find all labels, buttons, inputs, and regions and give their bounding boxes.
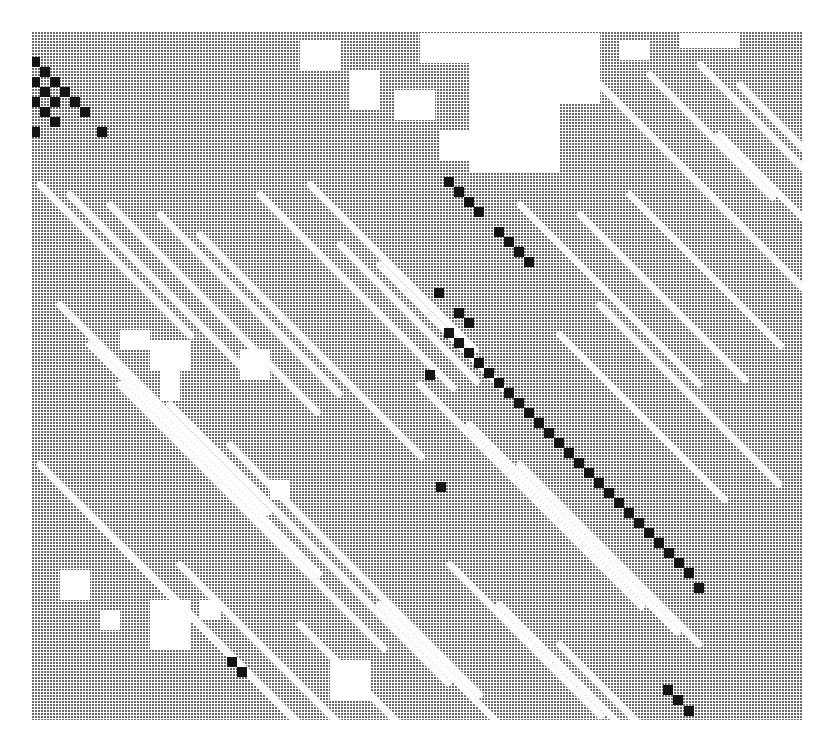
strong-match-cell xyxy=(474,207,484,217)
strong-match-cell xyxy=(504,237,514,247)
no-match-diagonal xyxy=(645,70,777,202)
strong-match-cell xyxy=(70,97,80,107)
strong-match-cell xyxy=(654,538,664,548)
strong-match-cell xyxy=(50,117,60,127)
strong-match-cell xyxy=(454,187,464,197)
strong-match-cell xyxy=(50,77,60,87)
strong-match-cell xyxy=(444,177,454,187)
strong-match-cell xyxy=(464,197,474,207)
strong-match-cell xyxy=(454,308,464,318)
strong-match-cell xyxy=(634,518,644,528)
no-match-diagonal xyxy=(555,330,730,505)
strong-match-cell xyxy=(673,695,683,705)
strong-match-cell xyxy=(574,458,584,468)
strong-match-cell xyxy=(524,257,534,267)
strong-match-cell xyxy=(674,558,684,568)
strong-match-cell xyxy=(604,488,614,498)
strong-match-cell xyxy=(514,398,524,408)
strong-match-cell xyxy=(40,67,50,77)
strong-match-cell xyxy=(564,448,574,458)
strong-match-cell xyxy=(60,87,70,97)
strong-match-cell xyxy=(32,77,40,87)
no-match-diagonal xyxy=(575,210,750,385)
no-match-region xyxy=(560,33,600,103)
strong-match-cell xyxy=(436,482,446,492)
no-match-diagonal xyxy=(35,180,196,341)
strong-match-cell xyxy=(464,348,474,358)
strong-match-cell xyxy=(494,378,504,388)
strong-match-cell xyxy=(684,568,694,578)
no-match-diagonal xyxy=(255,190,458,393)
strong-match-cell xyxy=(434,288,444,298)
no-match-diagonal xyxy=(595,80,741,226)
strong-match-cell xyxy=(554,438,564,448)
strong-match-cell xyxy=(594,478,604,488)
strong-match-cell xyxy=(544,428,554,438)
no-match-region xyxy=(120,330,150,350)
strong-match-cell xyxy=(624,508,634,518)
strong-match-cell xyxy=(97,127,107,137)
no-match-diagonal xyxy=(625,190,786,351)
strong-match-cell xyxy=(425,370,435,380)
no-match-region xyxy=(620,40,650,60)
no-match-region xyxy=(60,570,90,600)
strong-match-cell xyxy=(474,358,484,368)
no-match-region xyxy=(440,130,480,160)
strong-match-cell xyxy=(584,468,594,478)
no-match-region xyxy=(300,40,340,70)
strong-match-cell xyxy=(663,685,673,695)
no-match-region xyxy=(100,610,120,630)
strong-match-cell xyxy=(32,97,40,107)
strong-match-cell xyxy=(40,87,50,97)
strong-match-cell xyxy=(494,227,504,237)
no-match-region xyxy=(470,33,560,173)
strong-match-cell xyxy=(237,667,247,677)
no-match-diagonal xyxy=(515,200,704,389)
strong-match-cell xyxy=(684,706,694,716)
strong-match-cell xyxy=(664,548,674,558)
no-match-region xyxy=(160,370,180,400)
strong-match-cell xyxy=(504,388,514,398)
strong-match-cell xyxy=(32,57,40,67)
strong-match-cell xyxy=(227,657,237,667)
no-match-region xyxy=(420,33,470,63)
strong-match-cell xyxy=(80,107,90,117)
no-match-region xyxy=(395,90,435,120)
strong-match-cell xyxy=(694,583,704,593)
strong-match-cell xyxy=(484,368,494,378)
strong-match-cell xyxy=(444,328,454,338)
strong-match-cell xyxy=(534,418,544,428)
no-match-region xyxy=(350,70,380,110)
strong-match-cell xyxy=(614,498,624,508)
no-match-region xyxy=(150,340,190,370)
strong-match-cell xyxy=(464,318,474,328)
dot-matrix-plot xyxy=(32,32,802,720)
strong-match-cell xyxy=(50,97,60,107)
strong-match-cell xyxy=(514,247,524,257)
strong-match-cell xyxy=(644,528,654,538)
strong-match-cell xyxy=(32,127,40,137)
strong-match-cell xyxy=(454,338,464,348)
no-match-region xyxy=(680,33,740,48)
strong-match-cell xyxy=(524,408,534,418)
strong-match-cell xyxy=(40,107,50,117)
